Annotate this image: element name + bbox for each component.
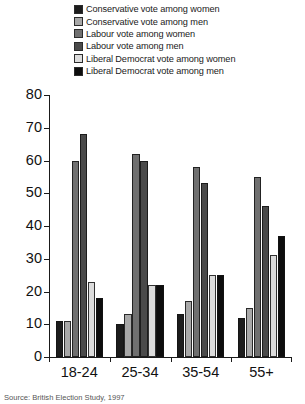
bar xyxy=(56,321,63,357)
bar xyxy=(185,301,192,357)
legend-item[interactable]: Labour vote among men xyxy=(74,40,302,52)
y-axis-tick xyxy=(44,193,49,194)
y-axis-tick-label: 80 xyxy=(26,87,42,102)
legend-item[interactable]: Liberal Democrat vote among women xyxy=(74,53,302,65)
bar xyxy=(246,308,253,357)
y-axis-tick-label: 40 xyxy=(26,218,42,233)
legend-item-label: Conservative vote among men xyxy=(86,17,208,27)
bar-chart-figure: Conservative vote among womenConservativ… xyxy=(0,0,305,404)
x-axis-group-label: 18-24 xyxy=(61,364,98,380)
bar xyxy=(132,154,139,357)
bar xyxy=(96,298,103,357)
y-axis-tick xyxy=(44,259,49,260)
y-axis-tick-label: 70 xyxy=(26,120,42,134)
bar xyxy=(278,236,285,357)
y-axis-tick xyxy=(44,95,49,96)
y-axis-tick-label: 30 xyxy=(26,251,42,266)
legend-swatch-icon xyxy=(74,5,83,14)
y-axis-tick xyxy=(44,128,49,129)
legend-swatch-icon xyxy=(74,17,83,26)
y-axis-tick xyxy=(44,226,49,227)
legend-item-label: Labour vote among women xyxy=(86,29,195,39)
bar xyxy=(124,314,131,357)
legend-swatch-icon xyxy=(74,67,83,76)
legend-item-label: Liberal Democrat vote among men xyxy=(86,66,224,76)
bar xyxy=(140,161,147,358)
x-axis-tick xyxy=(49,357,50,362)
bar xyxy=(88,282,95,357)
bar xyxy=(193,167,200,357)
bar xyxy=(64,321,71,357)
x-axis-group-label: 25-34 xyxy=(121,364,158,380)
legend-swatch-icon xyxy=(74,54,83,63)
chart-legend: Conservative vote among womenConservativ… xyxy=(74,3,302,77)
y-axis-line xyxy=(49,95,50,357)
bar xyxy=(156,285,163,357)
chart-plot-area: 0102030405060708018-2425-3435-5455+ xyxy=(49,95,292,357)
chart-footnote: Source: British Election Study, 1997 xyxy=(4,393,294,402)
y-axis-tick xyxy=(44,324,49,325)
legend-swatch-icon xyxy=(74,29,83,38)
x-axis-group-label: 55+ xyxy=(249,364,274,380)
legend-item[interactable]: Labour vote among women xyxy=(74,28,302,40)
bar xyxy=(201,183,208,357)
bar xyxy=(148,285,155,357)
x-axis-tick xyxy=(110,357,111,362)
bar xyxy=(270,255,277,357)
x-axis-tick xyxy=(231,357,232,362)
bar xyxy=(72,161,79,358)
x-axis-group-label: 35-54 xyxy=(182,364,219,380)
legend-item[interactable]: Conservative vote among men xyxy=(74,15,302,27)
bar xyxy=(116,324,123,357)
y-axis-tick-label: 0 xyxy=(34,349,42,364)
legend-item-label: Liberal Democrat vote among women xyxy=(86,54,235,64)
legend-item-label: Conservative vote among women xyxy=(86,4,219,14)
legend-item[interactable]: Liberal Democrat vote among men xyxy=(74,65,302,77)
y-axis-tick-label: 20 xyxy=(26,284,42,299)
y-axis-tick-label: 10 xyxy=(26,317,42,332)
legend-swatch-icon xyxy=(74,42,83,51)
legend-item[interactable]: Conservative vote among women xyxy=(74,3,302,15)
legend-item-label: Labour vote among men xyxy=(86,41,184,51)
bar xyxy=(262,206,269,357)
y-axis-tick xyxy=(44,161,49,162)
y-axis-tick-label: 50 xyxy=(26,186,42,201)
bar xyxy=(254,177,261,357)
bar xyxy=(217,275,224,357)
bar xyxy=(80,134,87,357)
y-axis-tick xyxy=(44,292,49,293)
x-axis-tick xyxy=(291,357,292,362)
bar xyxy=(209,275,216,357)
bar xyxy=(238,318,245,357)
y-axis-tick-label: 60 xyxy=(26,153,42,168)
x-axis-tick xyxy=(171,357,172,362)
bar xyxy=(177,314,184,357)
